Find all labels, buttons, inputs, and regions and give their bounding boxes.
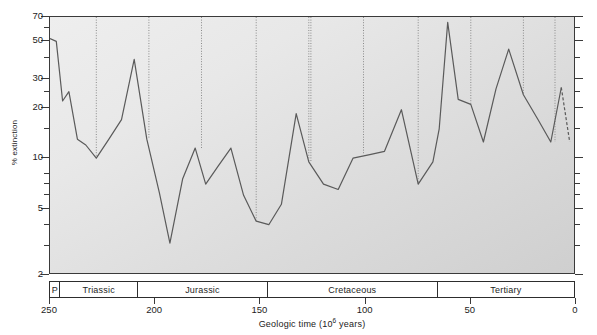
x-tick-label: 200 bbox=[134, 305, 174, 315]
y-tick-minor bbox=[44, 183, 49, 184]
right-tick-major bbox=[575, 78, 583, 79]
period-band-jurassic: Jurassic bbox=[138, 282, 268, 297]
period-band-cretaceous: Cretaceous bbox=[268, 282, 438, 297]
y-tick-label: 50 bbox=[3, 35, 43, 45]
x-tick-label: 0 bbox=[555, 305, 595, 315]
right-tick-minor bbox=[575, 173, 580, 174]
y-tick-minor bbox=[44, 245, 49, 246]
y-tick-minor bbox=[44, 194, 49, 195]
extinction-series-line bbox=[50, 22, 561, 243]
period-band-p: P bbox=[50, 282, 60, 297]
extinction-series-terminal-segment bbox=[561, 88, 569, 143]
period-band-tertiary: Tertiary bbox=[438, 282, 574, 297]
right-tick-minor bbox=[575, 194, 580, 195]
right-tick-major bbox=[575, 157, 583, 158]
y-tick-label: 10 bbox=[3, 152, 43, 162]
y-tick-label: 70 bbox=[3, 11, 43, 21]
y-tick-minor bbox=[44, 27, 49, 28]
x-axis-title-text: Geologic time (10 bbox=[259, 319, 333, 329]
period-band-triassic: Triassic bbox=[60, 282, 138, 297]
right-tick-major bbox=[575, 107, 583, 108]
x-tick-label: 250 bbox=[29, 305, 69, 315]
extinction-rate-chart: % extinction 705030201052 PTriassicJuras… bbox=[0, 0, 597, 335]
y-tick-label: 2 bbox=[3, 269, 43, 279]
x-tick-label: 150 bbox=[239, 305, 279, 315]
y-tick-minor bbox=[44, 173, 49, 174]
x-axis-title-units: years) bbox=[336, 319, 365, 329]
y-tick-minor bbox=[44, 57, 49, 58]
y-tick-minor bbox=[44, 224, 49, 225]
y-tick-label: 20 bbox=[3, 102, 43, 112]
plot-area bbox=[49, 16, 575, 274]
right-tick-major bbox=[575, 274, 583, 275]
right-tick-minor bbox=[575, 91, 580, 92]
right-tick-major bbox=[575, 208, 583, 209]
y-tick-label: 5 bbox=[3, 203, 43, 213]
geologic-period-band: PTriassicJurassicCretaceousTertiary bbox=[49, 281, 575, 298]
y-tick-minor bbox=[44, 91, 49, 92]
y-tick-minor bbox=[44, 128, 49, 129]
y-tick-label: 30 bbox=[3, 73, 43, 83]
right-tick-major bbox=[575, 16, 583, 17]
x-axis-title: Geologic time (106 years) bbox=[49, 317, 575, 329]
right-tick-minor bbox=[575, 57, 580, 58]
right-tick-minor bbox=[575, 128, 580, 129]
right-tick-major bbox=[575, 40, 583, 41]
right-tick-minor bbox=[575, 27, 580, 28]
extinction-line-plot bbox=[50, 17, 575, 274]
right-tick-minor bbox=[575, 183, 580, 184]
x-tick-label: 100 bbox=[345, 305, 385, 315]
right-tick-minor bbox=[575, 245, 580, 246]
right-tick-minor bbox=[575, 224, 580, 225]
x-tick-label: 50 bbox=[450, 305, 490, 315]
